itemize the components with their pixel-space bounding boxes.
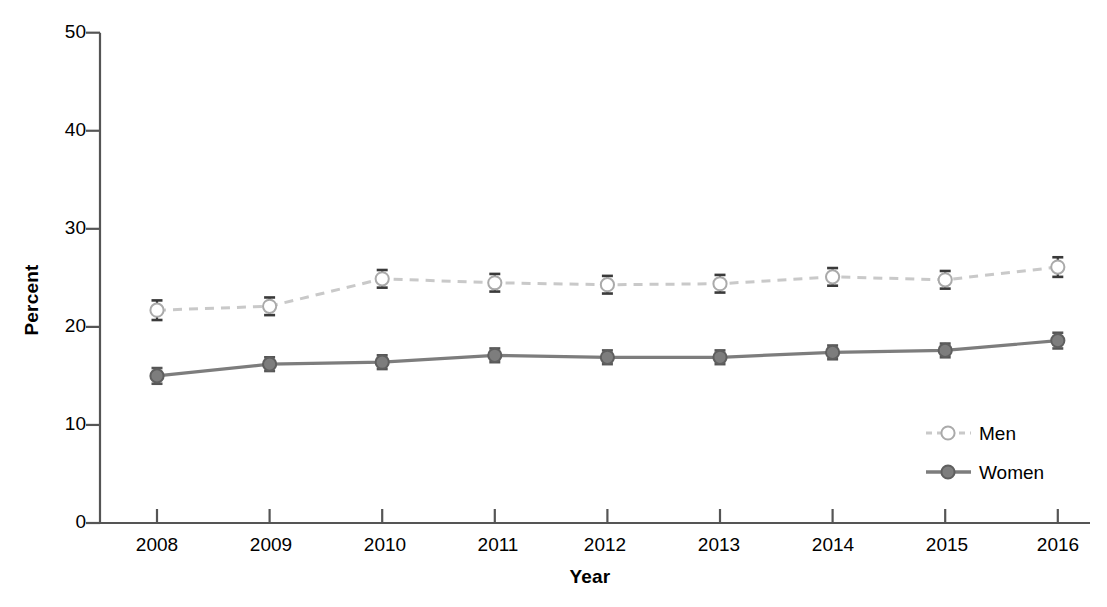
datapoint-men-2008 <box>150 304 163 317</box>
datapoint-women-2016 <box>1051 334 1064 347</box>
x-axis-title: Year <box>520 566 660 588</box>
datapoint-men-2009 <box>263 300 276 313</box>
x-tick-label-2010: 2010 <box>340 534 430 556</box>
datapoint-women-2009 <box>263 358 276 371</box>
datapoint-men-2014 <box>826 270 839 283</box>
x-tick-marks <box>157 509 1058 523</box>
datapoint-women-2012 <box>601 351 614 364</box>
y-tick-marks <box>86 33 100 523</box>
x-tick-label-2009: 2009 <box>226 534 316 556</box>
chart-figure: Percent Year 0 10 20 30 40 50 2008 2009 … <box>0 0 1107 607</box>
y-tick-label-40: 40 <box>30 119 86 141</box>
line-chart-plot <box>0 0 1107 607</box>
series-women <box>150 333 1064 384</box>
y-tick-label-0: 0 <box>30 511 86 533</box>
y-tick-label-10: 10 <box>30 413 86 435</box>
x-tick-label-2015: 2015 <box>902 534 992 556</box>
x-tick-label-2012: 2012 <box>560 534 650 556</box>
legend-symbols <box>926 426 971 478</box>
y-axis-title: Percent <box>22 220 41 380</box>
series-men <box>150 257 1064 320</box>
y-tick-label-30: 30 <box>30 217 86 239</box>
legend-label-women: Women <box>979 462 1044 484</box>
datapoint-women-2015 <box>939 344 952 357</box>
datapoint-men-2016 <box>1051 260 1064 273</box>
datapoint-men-2013 <box>713 277 726 290</box>
legend-marker-women <box>941 465 954 478</box>
x-tick-label-2016: 2016 <box>1013 534 1103 556</box>
datapoint-women-2014 <box>826 346 839 359</box>
datapoint-men-2012 <box>601 278 614 291</box>
datapoint-men-2015 <box>939 273 952 286</box>
x-tick-label-2011: 2011 <box>453 534 543 556</box>
y-tick-label-20: 20 <box>30 315 86 337</box>
datapoint-women-2011 <box>488 349 501 362</box>
y-tick-label-50: 50 <box>30 21 86 43</box>
datapoint-women-2010 <box>376 356 389 369</box>
legend-marker-men <box>941 426 954 439</box>
x-tick-label-2008: 2008 <box>112 534 202 556</box>
datapoint-men-2011 <box>488 276 501 289</box>
datapoint-women-2013 <box>713 351 726 364</box>
legend-label-men: Men <box>979 423 1016 445</box>
datapoint-women-2008 <box>150 369 163 382</box>
x-tick-label-2013: 2013 <box>674 534 764 556</box>
datapoint-men-2010 <box>376 272 389 285</box>
x-tick-label-2014: 2014 <box>788 534 878 556</box>
